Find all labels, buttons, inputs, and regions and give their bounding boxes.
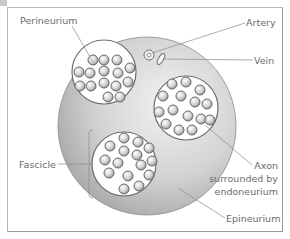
- label-axon-line3: endoneurium: [215, 186, 278, 197]
- artery-icon: [144, 50, 154, 60]
- nerve-cross-section-diagram: [0, 0, 290, 239]
- fascicle-bottom: [92, 132, 157, 196]
- label-fascicle: Fascicle: [19, 159, 56, 170]
- label-axon-line1: Axon: [254, 160, 278, 171]
- label-epineurium: Epineurium: [226, 213, 280, 224]
- label-perineurium: Perineurium: [20, 15, 78, 26]
- label-vein: Vein: [254, 55, 274, 66]
- fascicle-right: [154, 76, 218, 140]
- label-artery: Artery: [246, 17, 276, 28]
- fascicle-top-left: [72, 40, 136, 104]
- label-axon-line2: surrounded by: [209, 173, 278, 184]
